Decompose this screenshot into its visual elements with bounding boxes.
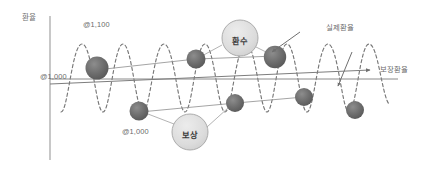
- diagram-canvas: 환율 @1,100 @1,000 @1,000 실제환율 보장환율 환수 보상: [0, 0, 424, 177]
- guaranteed-rate-label: 보장환율: [380, 66, 408, 74]
- bubble-label-hwansu: 환수: [232, 34, 248, 46]
- bubble-leader-upper-right: [256, 47, 266, 52]
- value-label-peak: @1,100: [83, 21, 110, 29]
- marker-ball-peak-1: [86, 57, 109, 80]
- actual-rate-wave: [61, 44, 389, 112]
- lower-connector-line: [140, 97, 304, 112]
- marker-ball-trough-1: [130, 102, 149, 121]
- marker-ball-trough-4: [346, 101, 364, 119]
- marker-ball-peak-3: [264, 46, 286, 68]
- y-axis-label: 환율: [22, 14, 36, 22]
- value-label-trough: @1,000: [122, 128, 149, 136]
- bubble-leader-lower-left: [148, 114, 174, 124]
- actual-rate-pointer-arrow: [338, 52, 352, 86]
- value-label-baseline: @1,000: [40, 73, 67, 81]
- peak-pointer-arrow: [272, 32, 300, 52]
- marker-ball-trough-3: [295, 88, 313, 106]
- bubble-leader-lower-right: [207, 108, 228, 127]
- marker-ball-peak-2: [187, 50, 206, 69]
- diagram-vector-layer: [0, 0, 424, 177]
- upper-connector-line: [96, 56, 276, 70]
- actual-rate-label: 실제환율: [326, 24, 354, 32]
- bubble-label-bosang: 보상: [182, 128, 198, 140]
- marker-ball-trough-2: [226, 94, 244, 112]
